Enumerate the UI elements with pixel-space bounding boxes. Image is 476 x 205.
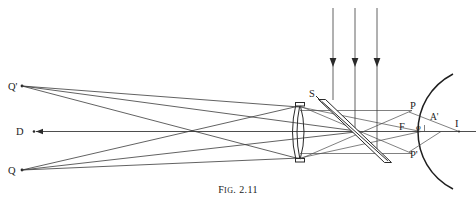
lens-right-surface [300, 104, 304, 160]
label-phi: φ [416, 122, 421, 132]
i-point-dot [458, 130, 460, 132]
lens-top-mount [296, 103, 305, 107]
label-q: Q [8, 165, 16, 176]
optical-axis-group [33, 129, 476, 134]
label-i: I [455, 118, 459, 129]
d-point-dot [33, 130, 36, 133]
biconvex-lens [293, 103, 305, 163]
label-p-prime: P' [410, 149, 418, 160]
ray-q-long-to-axis [22, 132, 360, 171]
ray-bundle-q [21, 106, 300, 171]
ray-q-to-lens-top [22, 106, 299, 170]
beam-splitter-plate [316, 96, 392, 163]
label-a-prime: A' [430, 112, 439, 122]
caption-smallcaps: IG [224, 186, 233, 195]
label-s: S [309, 88, 315, 99]
ray-qprime-to-lens-bottom [22, 86, 300, 159]
figure-caption: FIG. 2.11 [0, 184, 476, 195]
label-d: D [16, 126, 24, 137]
lens-bottom-mount [296, 159, 305, 163]
ray-q-to-lens-bottom [22, 158, 300, 170]
ray-bundle-q-prime [21, 85, 300, 159]
incoming-ray-2-arrowhead [352, 58, 359, 67]
label-p: P [410, 100, 416, 111]
lens-inner-surface [297, 104, 300, 160]
label-f: F [399, 121, 405, 132]
figure-container: Q' D Q S P P' A' F φ I FIG. 2.11 [0, 0, 476, 205]
incoming-ray-1-arrowhead [330, 58, 337, 67]
caption-number: . 2.11 [233, 184, 258, 195]
lens-left-surface [293, 104, 297, 160]
axis-left-arrowhead [36, 129, 43, 134]
optics-ray-diagram: Q' D Q S P P' A' F φ I [0, 0, 476, 205]
label-q-prime: Q' [8, 81, 18, 92]
incoming-ray-3-arrowhead [374, 58, 381, 67]
